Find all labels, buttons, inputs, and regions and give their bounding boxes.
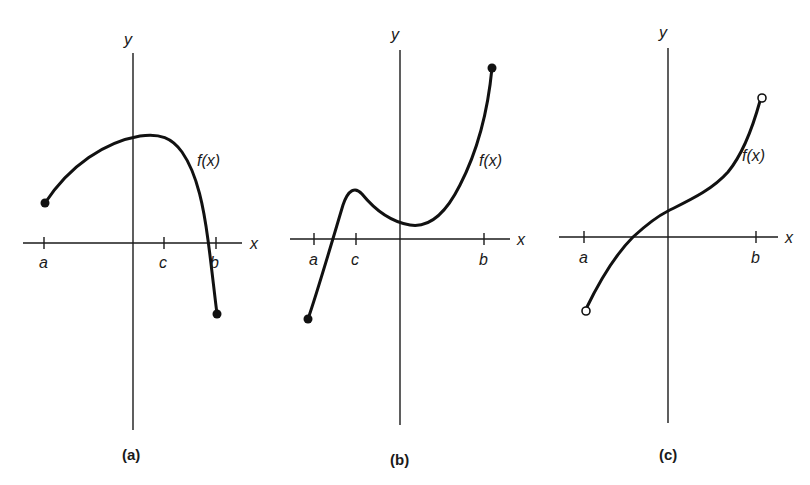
tick-label-b: b [479, 251, 488, 268]
panel-caption: (a) [122, 446, 140, 463]
y-axis-label: y [658, 24, 668, 41]
tick-label-c: c [351, 251, 359, 268]
tick-label-c: c [159, 254, 167, 271]
y-axis-label: y [123, 31, 133, 48]
closed-endpoint-dot [213, 310, 222, 319]
panel-b: y x f(x) a c b (b) [290, 26, 526, 468]
open-endpoint-circle [758, 94, 766, 102]
open-endpoint-circle [582, 307, 590, 315]
x-axis-label: x [249, 235, 259, 252]
function-label: f(x) [197, 152, 220, 169]
panel-caption: (b) [390, 451, 409, 468]
tick-label-a: a [579, 249, 588, 266]
figure-canvas: y x f(x) a c b (a) y x f(x) a c b (b) y … [0, 0, 810, 485]
closed-endpoint-dot [488, 64, 497, 73]
tick-label-a: a [39, 254, 48, 271]
function-curve [586, 101, 760, 309]
tick-label-a: a [309, 251, 318, 268]
closed-endpoint-dot [304, 315, 313, 324]
x-axis-label: x [784, 229, 794, 246]
closed-endpoint-dot [41, 199, 50, 208]
panel-caption: (c) [659, 446, 677, 463]
function-curve [45, 135, 217, 314]
tick-label-b: b [751, 249, 760, 266]
tick-label-b: b [210, 254, 219, 271]
function-label: f(x) [742, 147, 765, 164]
y-axis-label: y [390, 26, 400, 43]
x-axis-label: x [516, 231, 526, 248]
panel-c: y x f(x) a b (c) [559, 24, 794, 463]
function-label: f(x) [479, 152, 502, 169]
panel-a: y x f(x) a c b (a) [23, 31, 259, 463]
